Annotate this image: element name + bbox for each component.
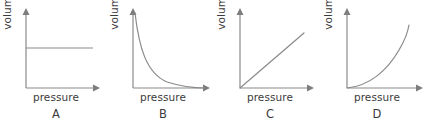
x-axis-label-d: pressure [333, 91, 421, 104]
curve-b [135, 13, 205, 88]
curve-c [240, 33, 304, 88]
graph-svg-c [214, 0, 321, 96]
panel-letter-c: C [226, 107, 314, 121]
graph-panel-c: volume pressure C [214, 0, 321, 130]
graph-panel-d: volume pressure D [321, 0, 428, 130]
graph-panel-a: volume pressure A [0, 0, 107, 130]
graph-svg-d [321, 0, 428, 96]
y-axis-label-c: volume [214, 0, 228, 40]
volume-pressure-figure: volume pressure A volume pressure B [0, 0, 432, 130]
panel-letter-a: A [12, 107, 100, 121]
graph-panel-b: volume pressure B [107, 0, 214, 130]
graph-svg-b [107, 0, 214, 96]
y-axis-label-b: volume [107, 0, 121, 40]
x-axis-label-a: pressure [12, 91, 100, 104]
panel-letter-b: B [119, 107, 207, 121]
x-axis-label-b: pressure [119, 91, 207, 104]
y-axis-label-a: volume [0, 0, 14, 40]
curve-d [347, 25, 409, 88]
panel-letter-d: D [333, 107, 421, 121]
y-axis-label-d: volume [321, 0, 335, 40]
x-axis-label-c: pressure [226, 91, 314, 104]
graph-svg-a [0, 0, 107, 96]
